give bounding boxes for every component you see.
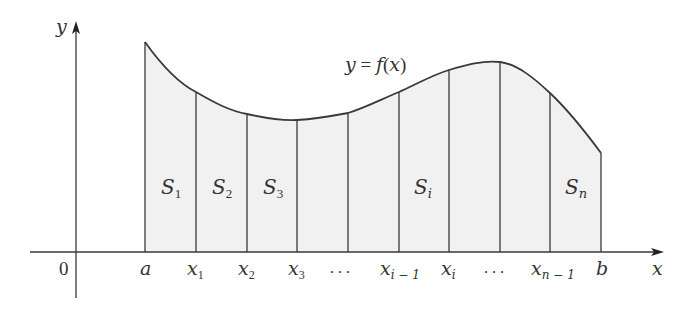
tick-label-xnm1: xn − 1 (531, 257, 575, 282)
tick-label-x1: x1 (187, 257, 204, 282)
tick-label-xim1: xi − 1 (380, 257, 420, 282)
curve-label: y = f(x) (344, 53, 406, 76)
tick-label-a: a (140, 257, 151, 279)
y-axis-label: y (55, 15, 67, 37)
tick-label-dots-2: . . . (484, 259, 504, 276)
tick-label-b: b (596, 257, 608, 279)
origin-label: 0 (59, 258, 69, 279)
x-axis-label: x (652, 257, 663, 279)
tick-label-xi: xi (441, 257, 456, 282)
tick-label-x3: x3 (288, 257, 305, 282)
tick-label-dots-1: . . . (330, 259, 350, 276)
tick-label-x2: x2 (238, 257, 255, 282)
riemann-strips-diagram: y x 0 y = f(x) S1 S2 S3 Si Sn a x1 x2 x3… (0, 0, 700, 312)
